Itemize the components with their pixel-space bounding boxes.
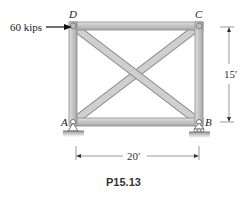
joint-C — [196, 23, 202, 29]
load-label: 60 kips — [10, 21, 42, 33]
height-dimension-label: 15′ — [224, 68, 237, 80]
node-label-B: B — [205, 116, 212, 128]
member-CB — [195, 22, 203, 126]
node-label-D: D — [68, 8, 77, 20]
truss-diagram: 60 kips D C A B 15′ 20′ P15.13 — [0, 0, 249, 199]
figure-caption: P15.13 — [106, 176, 141, 188]
width-dimension-label: 20′ — [127, 150, 140, 162]
member-DC — [70, 22, 203, 30]
joint-D — [70, 23, 76, 29]
node-label-C: C — [195, 8, 203, 20]
member-AB — [70, 118, 203, 126]
load-arrow-icon — [46, 24, 72, 30]
member-AD — [69, 22, 77, 126]
node-label-A: A — [60, 116, 68, 128]
